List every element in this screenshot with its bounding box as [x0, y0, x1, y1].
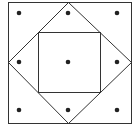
dot	[115, 60, 120, 65]
dot	[17, 11, 22, 16]
dot	[17, 60, 22, 65]
dot-grid	[17, 11, 120, 113]
dot	[66, 60, 71, 65]
dot	[115, 108, 120, 113]
dot	[115, 11, 120, 16]
dot	[17, 108, 22, 113]
geometric-figure	[0, 0, 136, 125]
dot	[66, 108, 71, 113]
dot	[66, 11, 71, 16]
